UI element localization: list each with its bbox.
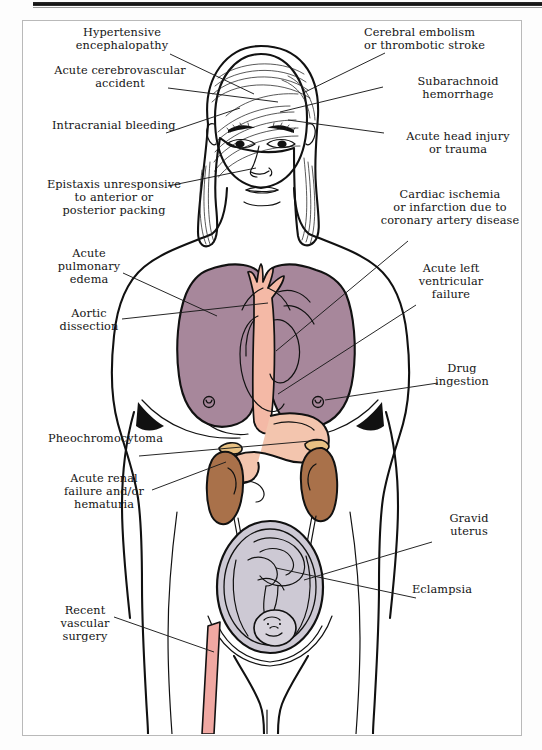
- page-top-rule-hairline: [33, 7, 542, 8]
- gravid-uterus: [208, 521, 332, 666]
- leader-gravid-uterus: [304, 542, 432, 580]
- label-intracranial-bleeding: Intracranial bleeding: [52, 119, 180, 132]
- label-acute-head-injury: Acute head injury or trauma: [392, 130, 524, 156]
- label-acute-renal-failure: Acute renal failure and/or hematuria: [50, 472, 158, 512]
- label-eclampsia: Eclampsia: [412, 583, 502, 596]
- label-acute-cerebrovascular-accident: Acute cerebrovascular accident: [50, 64, 190, 90]
- label-cardiac-ischemia: Cardiac ischemia or infarction due to co…: [372, 188, 528, 228]
- leader-recent-vascular-surgery: [114, 617, 214, 652]
- figure-page: .ol{fill:none;stroke:#111;stroke-width:2…: [0, 0, 542, 750]
- label-drug-ingestion: Drug ingestion: [428, 362, 496, 388]
- page-top-rule: [33, 2, 542, 6]
- label-epistaxis-unresponsive: Epistaxis unresponsive to anterior or po…: [40, 178, 188, 218]
- label-aortic-dissection: Aortic dissection: [46, 307, 132, 333]
- label-acute-left-ventricular-failure: Acute left ventricular failure: [410, 262, 492, 302]
- label-acute-pulmonary-edema: Acute pulmonary edema: [46, 247, 132, 287]
- label-recent-vascular-surgery: Recent vascular surgery: [46, 604, 124, 644]
- thoracic-organs: [177, 264, 355, 435]
- label-pheochromocytoma: Pheochromocytoma: [48, 432, 178, 445]
- leader-acute-head-injury: [288, 120, 384, 133]
- leader-cerebral-embolism: [303, 53, 385, 93]
- label-gravid-uterus: Gravid uterus: [438, 512, 500, 538]
- label-subarachnoid-hemorrhage: Subarachnoid hemorrhage: [400, 75, 516, 101]
- recent-vascular-surgery-graft: [202, 622, 220, 734]
- left-kidney: [301, 448, 337, 521]
- label-cerebral-embolism: Cerebral embolism or thrombotic stroke: [364, 26, 526, 52]
- label-hypertensive-encephalopathy: Hypertensive encephalopathy: [64, 26, 180, 52]
